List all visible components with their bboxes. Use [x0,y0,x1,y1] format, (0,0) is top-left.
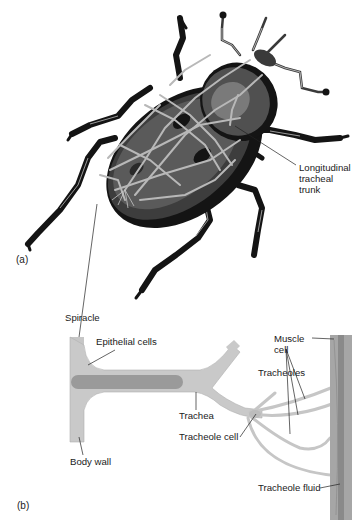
label-body-wall: Body wall [70,456,111,467]
label-spiracle: Spiracle [65,312,100,323]
label-tracheole-fluid: Tracheole fluid [258,482,321,493]
trachea-detail-illustration [0,0,363,527]
label-muscle-cell: Muscle cell [274,333,304,355]
insect-tracheal-system-figure: (a) (b) Longitudinal tracheal trunk Spir… [0,0,363,527]
panel-b-tag: (b) [17,500,29,511]
panel-a-tag: (a) [16,254,28,265]
label-epithelial-cells: Epithelial cells [96,336,157,347]
label-trachea: Trachea [179,410,214,421]
leader-epithelial [88,350,115,365]
label-tracheoles: Tracheoles [258,367,305,378]
label-tracheole-cell: Tracheole cell [179,431,238,442]
trachea-lumen [71,375,183,389]
label-longitudinal-trunk: Longitudinal tracheal trunk [299,162,351,195]
